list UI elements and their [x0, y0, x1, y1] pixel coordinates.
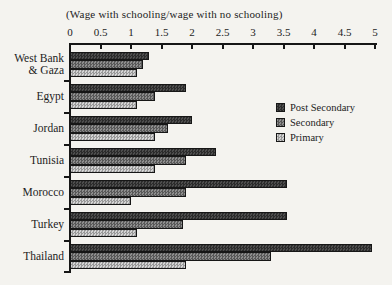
legend-swatch-primary: [276, 133, 285, 142]
bar-primary-thailand: [70, 261, 186, 269]
x-tick-label: 1: [128, 26, 134, 38]
x-tick: [252, 45, 254, 49]
bar-secondary-tunisia: [70, 156, 186, 164]
x-tick-label: 1.5: [155, 26, 169, 38]
chart-title: (Wage with schooling/wage with no school…: [66, 8, 283, 20]
bar-secondary-morocco: [70, 188, 186, 196]
legend-label-secondary: Secondary: [290, 117, 334, 128]
x-tick: [191, 45, 193, 49]
x-tick-label: 2.5: [216, 26, 230, 38]
x-axis-line: [70, 43, 377, 45]
x-tick: [130, 45, 132, 49]
x-tick-label: 0.5: [94, 26, 108, 38]
wage-returns-chart: (Wage with schooling/wage with no school…: [0, 0, 392, 285]
y-axis-tick: [64, 271, 70, 273]
bar-post-secondary-egypt: [70, 84, 186, 92]
x-tick: [100, 45, 102, 49]
x-tick-label: 2: [189, 26, 195, 38]
x-tick-label: 4.5: [338, 26, 352, 38]
legend-label-post-secondary: Post Secondary: [290, 102, 355, 113]
bar-post-secondary-jordan: [70, 116, 192, 124]
bar-secondary-west-bank: [70, 60, 143, 68]
bar-secondary-jordan: [70, 124, 168, 132]
bar-post-secondary-west-bank: [70, 52, 149, 60]
x-tick-label: 3.5: [277, 26, 291, 38]
legend-item-primary: Primary: [276, 130, 355, 145]
x-tick-label: 0: [67, 26, 73, 38]
category-label-west-bank: West Bank & Gaza: [0, 52, 64, 77]
bar-primary-egypt: [70, 101, 137, 109]
x-tick: [161, 45, 163, 49]
bar-post-secondary-tunisia: [70, 148, 216, 156]
legend-item-post-secondary: Post Secondary: [276, 100, 355, 115]
legend-label-primary: Primary: [290, 132, 324, 143]
y-axis-tick: [64, 112, 70, 114]
legend-swatch-secondary: [276, 118, 285, 127]
bar-post-secondary-turkey: [70, 212, 287, 220]
bar-primary-turkey: [70, 229, 137, 237]
category-label-tunisia: Tunisia: [0, 148, 64, 173]
category-label-morocco: Morocco: [0, 180, 64, 205]
category-label-egypt: Egypt: [0, 84, 64, 109]
legend-swatch-post-secondary: [276, 103, 285, 112]
x-tick: [374, 45, 376, 49]
bar-primary-morocco: [70, 197, 131, 205]
y-axis-tick: [64, 176, 70, 178]
category-label-turkey: Turkey: [0, 212, 64, 237]
y-axis-tick: [64, 80, 70, 82]
x-tick: [313, 45, 315, 49]
category-label-thailand: Thailand: [0, 244, 64, 269]
category-label-jordan: Jordan: [0, 116, 64, 141]
x-tick-label: 5: [372, 26, 378, 38]
x-tick-label: 4: [311, 26, 317, 38]
bar-post-secondary-morocco: [70, 180, 287, 188]
legend-item-secondary: Secondary: [276, 115, 355, 130]
y-axis-tick: [64, 240, 70, 242]
x-tick: [222, 45, 224, 49]
x-tick-label: 3: [250, 26, 256, 38]
legend: Post SecondarySecondaryPrimary: [276, 100, 355, 145]
bar-primary-jordan: [70, 133, 155, 141]
bar-secondary-egypt: [70, 92, 155, 100]
bar-primary-tunisia: [70, 165, 155, 173]
x-tick: [69, 45, 71, 49]
x-tick: [283, 45, 285, 49]
y-axis-tick: [64, 208, 70, 210]
y-axis-tick: [64, 144, 70, 146]
bar-secondary-turkey: [70, 220, 183, 228]
bar-primary-west-bank: [70, 69, 137, 77]
x-tick: [344, 45, 346, 49]
bar-post-secondary-thailand: [70, 244, 372, 252]
bar-secondary-thailand: [70, 252, 271, 260]
